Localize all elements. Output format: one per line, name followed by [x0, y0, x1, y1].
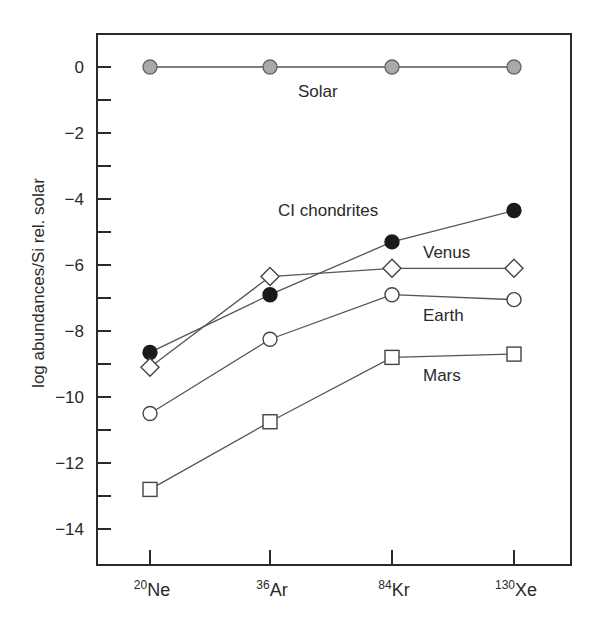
- series-mars: [143, 347, 521, 496]
- isotope-mass: 36: [256, 578, 270, 592]
- chart: 0−2−4−6−8−10−12−14 20Ne36Ar84Kr130Xe log…: [0, 0, 597, 627]
- y-tick-label: −12: [55, 454, 84, 473]
- square-marker: [507, 347, 521, 361]
- circle-marker: [143, 407, 157, 421]
- element-symbol: Xe: [515, 580, 537, 600]
- y-tick-label: −6: [65, 256, 84, 275]
- isotope-mass: 130: [495, 578, 515, 592]
- square-marker: [263, 415, 277, 429]
- circle-marker: [143, 60, 157, 74]
- x-tick-label-ne: 20Ne: [134, 578, 170, 600]
- square-marker: [143, 482, 157, 496]
- circle-marker: [385, 60, 399, 74]
- y-tick-label: −4: [65, 190, 84, 209]
- series-layer: [141, 60, 523, 496]
- x-axis: 20Ne36Ar84Kr130Xe: [134, 550, 537, 600]
- circle-marker: [263, 60, 277, 74]
- series-line: [150, 211, 514, 353]
- circle-marker: [263, 332, 277, 346]
- label-ci-chondrites: CI chondrites: [278, 201, 378, 220]
- x-tick-label-xe: 130Xe: [495, 578, 537, 600]
- element-symbol: Kr: [392, 580, 410, 600]
- y-axis-label: log abundances/Si rel. solar: [29, 178, 48, 388]
- square-marker: [385, 350, 399, 364]
- y-tick-label: −2: [65, 124, 84, 143]
- y-axis: 0−2−4−6−8−10−12−14: [55, 58, 111, 539]
- y-tick-label: −14: [55, 520, 84, 539]
- circle-marker: [507, 204, 521, 218]
- element-symbol: Ar: [270, 580, 288, 600]
- diamond-marker: [141, 358, 159, 376]
- y-tick-label: −10: [55, 388, 84, 407]
- label-mars: Mars: [423, 366, 461, 385]
- circle-marker: [507, 60, 521, 74]
- y-tick-label: −8: [65, 322, 84, 341]
- x-tick-label-kr: 84Kr: [378, 578, 409, 600]
- series-earth: [143, 288, 521, 421]
- diamond-marker: [383, 259, 401, 277]
- x-tick-label-ar: 36Ar: [256, 578, 287, 600]
- series-venus: [141, 259, 523, 376]
- circle-marker: [507, 293, 521, 307]
- circle-marker: [385, 235, 399, 249]
- series-ci-chondrites: [143, 204, 521, 360]
- label-solar: Solar: [298, 82, 338, 101]
- series-labels: SolarCI chondritesVenusEarthMars: [278, 82, 470, 385]
- circle-marker: [263, 288, 277, 302]
- isotope-mass: 84: [378, 578, 392, 592]
- series-solar: [143, 60, 521, 74]
- label-earth: Earth: [423, 306, 464, 325]
- diamond-marker: [505, 259, 523, 277]
- diamond-marker: [261, 268, 279, 286]
- element-symbol: Ne: [147, 580, 170, 600]
- circle-marker: [385, 288, 399, 302]
- isotope-mass: 20: [134, 578, 148, 592]
- y-tick-label: 0: [75, 58, 84, 77]
- label-venus: Venus: [423, 243, 470, 262]
